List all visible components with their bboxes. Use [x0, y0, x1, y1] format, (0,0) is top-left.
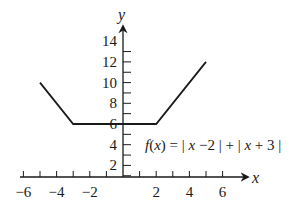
annotations: f(x) = | x −2 | + | x + 3 | — [145, 137, 281, 154]
x-tick-label: −2 — [82, 184, 98, 200]
chart: −6−4−2246 x 2468101214 y f(x) = | x −2 |… — [0, 0, 292, 205]
x-tick-label: 2 — [152, 184, 160, 200]
y-axis-ticks — [123, 52, 131, 176]
y-axis-tick-labels: 2468101214 — [102, 33, 118, 173]
x-axis-tick-labels: −6−4−2246 — [15, 184, 226, 200]
function-label: f(x) = | x −2 | + | x + 3 | — [145, 137, 281, 154]
x-tick-label: −4 — [49, 184, 65, 200]
y-tick-label: 14 — [102, 33, 118, 49]
y-tick-label: 8 — [110, 95, 118, 111]
x-tick-label: 4 — [186, 184, 194, 200]
x-tick-label: 6 — [219, 184, 227, 200]
y-tick-label: 10 — [102, 75, 117, 91]
y-axis: 2468101214 y — [102, 6, 131, 177]
y-tick-label: 12 — [102, 54, 117, 70]
x-axis: −6−4−2246 x — [15, 169, 259, 200]
y-tick-label: 4 — [110, 137, 118, 153]
y-tick-label: 2 — [110, 157, 118, 173]
y-axis-label: y — [116, 6, 126, 24]
x-axis-label: x — [251, 169, 259, 186]
x-tick-label: −6 — [15, 184, 31, 200]
